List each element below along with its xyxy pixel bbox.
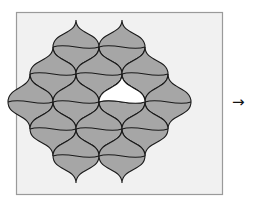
right-arrow-icon: → bbox=[232, 93, 245, 111]
tessellation-figure: → bbox=[0, 0, 259, 203]
